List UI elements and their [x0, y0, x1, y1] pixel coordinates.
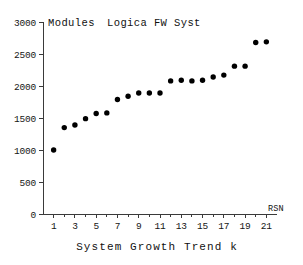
y-tick-label: 0	[30, 210, 36, 221]
y-tick-label: 1500	[14, 114, 37, 125]
x-tick-label: 13	[176, 221, 188, 232]
x-tick-label: 5	[93, 221, 99, 232]
x-tick-label: 19	[240, 221, 252, 232]
data-point	[104, 110, 109, 115]
data-point	[72, 122, 77, 127]
x-axis-title: System Growth Trend k	[76, 241, 238, 253]
data-point	[221, 72, 226, 77]
data-point	[93, 111, 98, 116]
data-point	[200, 78, 205, 83]
x-tick-label: 17	[218, 221, 229, 232]
x-tick-label: 7	[115, 221, 121, 232]
chart-title-left: Modules	[48, 17, 95, 29]
data-point	[136, 90, 141, 95]
x-tick-label: 9	[136, 221, 142, 232]
data-point	[147, 90, 152, 95]
y-tick-label: 3000	[14, 18, 37, 29]
chart-title-right: Logica FW Syst	[107, 17, 201, 29]
x-tick-label: 11	[154, 221, 166, 232]
data-point	[179, 78, 184, 83]
y-tick-label: 2000	[14, 82, 37, 93]
data-point	[264, 39, 269, 44]
x-tick-label: 21	[261, 221, 273, 232]
x-axis-name-label: RSN	[268, 204, 284, 214]
chart-background	[0, 0, 303, 265]
chart-container: 050010001500200025003000 135791113151719…	[0, 0, 303, 265]
data-point	[210, 74, 215, 79]
data-point	[125, 94, 130, 99]
y-tick-label: 2500	[14, 50, 37, 61]
x-tick-label: 1	[51, 221, 57, 232]
y-tick-label: 1000	[14, 146, 37, 157]
x-tick-label: 15	[197, 221, 209, 232]
data-point	[51, 147, 56, 152]
x-tick-label: 3	[72, 221, 78, 232]
data-point	[83, 116, 88, 121]
data-point	[189, 78, 194, 83]
y-tick-label: 500	[19, 178, 36, 189]
data-point	[232, 63, 237, 68]
data-point	[242, 63, 247, 68]
data-point	[115, 97, 120, 102]
data-point	[62, 125, 67, 130]
data-point	[253, 40, 258, 45]
data-point	[168, 78, 173, 83]
scatter-plot: 050010001500200025003000 135791113151719…	[0, 0, 303, 265]
data-point	[157, 90, 162, 95]
